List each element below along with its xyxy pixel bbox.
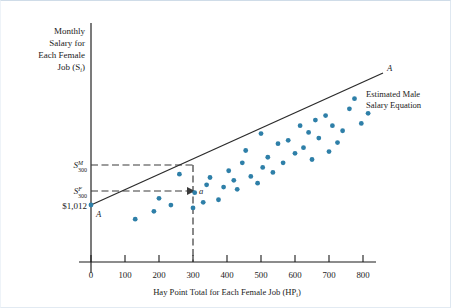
intercept-label: $1,012 — [62, 201, 87, 211]
scatter-point — [298, 123, 303, 128]
scatter-point — [169, 203, 174, 208]
x-axis-title-text: Hay Point Total for Each Female Job (HP — [153, 287, 296, 297]
intercept-point — [89, 203, 94, 208]
scatter-point — [226, 168, 231, 173]
female-salary-marker-label: SF300 — [74, 186, 87, 199]
scatter-point — [340, 128, 345, 133]
y-axis-title-tail: ) — [82, 62, 85, 72]
estimated-male-salary-line — [91, 73, 383, 205]
scatter-point — [323, 113, 328, 118]
x-tick-label: 700 — [322, 270, 336, 280]
x-tick-label: 600 — [288, 270, 302, 280]
y-axis-title-line: Monthly — [54, 26, 86, 36]
scatter-point — [271, 170, 276, 175]
scatter-point — [330, 123, 335, 128]
scatter-point — [216, 197, 221, 202]
scatter-point — [359, 121, 364, 126]
scatter-point — [255, 181, 260, 186]
x-tick-label: 100 — [118, 270, 132, 280]
scatter-point — [310, 157, 315, 162]
male-salary-marker-label: SM300 — [74, 160, 88, 173]
scatter-point — [316, 136, 321, 141]
x-axis-title-tail: ) — [298, 287, 301, 297]
fit-line-note-line: Salary Equation — [366, 100, 422, 110]
scatter-point — [265, 155, 270, 160]
fit-line-note: Estimated Male Salary Equation — [366, 89, 422, 110]
x-tick-label: 500 — [254, 270, 268, 280]
scatter-point — [243, 148, 248, 153]
scatter-point — [352, 96, 357, 101]
fit-line-note-line: Estimated Male — [366, 89, 420, 99]
scatter-point — [152, 209, 157, 214]
x-tick-label: 200 — [152, 270, 166, 280]
scatter-point — [306, 130, 311, 135]
chart-svg: 0 100 200 300 400 500 600 700 800 Hay Po… — [1, 1, 451, 308]
scatter-point — [347, 106, 352, 111]
scatter-point — [157, 196, 162, 201]
y-axis-title-line-text: Job (S — [58, 62, 81, 72]
scatter-point — [208, 175, 213, 180]
scatter-plot: 0 100 200 300 400 500 600 700 800 Hay Po… — [1, 1, 450, 307]
scatter-point — [286, 138, 291, 143]
x-tick-label: 300 — [186, 270, 200, 280]
y-axis-title-line: Job (Si) — [58, 62, 85, 73]
scatter-point — [191, 206, 196, 211]
scatter-point — [231, 178, 236, 183]
scatter-point — [260, 165, 265, 170]
y-axis-title: Monthly Salary for Each Female Job (Si) — [38, 26, 85, 73]
scatter-point — [276, 141, 281, 146]
x-tick-label: 0 — [89, 270, 94, 280]
y-axis-title-line: Salary for — [49, 38, 85, 48]
scatter-point — [235, 187, 240, 192]
scatter-point — [248, 174, 253, 179]
scatter-point — [221, 185, 226, 190]
figure-frame: 0 100 200 300 400 500 600 700 800 Hay Po… — [0, 0, 451, 308]
scatter-point — [301, 145, 306, 150]
male-salary-sup: M — [77, 160, 84, 166]
line-label-end: A — [386, 63, 393, 73]
point-a-label: a — [199, 186, 203, 196]
x-axis-title: Hay Point Total for Each Female Job (HPi… — [153, 287, 301, 298]
scatter-point — [327, 149, 332, 154]
line-label-start: A — [95, 209, 102, 219]
x-tick-label: 400 — [220, 270, 234, 280]
x-tick-labels: 0 100 200 300 400 500 600 700 800 — [89, 270, 370, 280]
scatter-points — [133, 96, 371, 221]
scatter-point — [204, 182, 209, 187]
scatter-point — [281, 160, 286, 165]
scatter-point — [192, 190, 197, 195]
female-salary-sup: F — [77, 186, 82, 192]
scatter-point — [293, 151, 298, 156]
y-axis-title-line: Each Female — [38, 50, 85, 60]
scatter-point — [133, 217, 138, 222]
scatter-point — [335, 140, 340, 145]
female-salary-sub: 300 — [78, 193, 87, 199]
x-tick-marks — [91, 255, 363, 262]
scatter-point — [240, 160, 245, 165]
scatter-point — [313, 118, 318, 123]
x-tick-label: 800 — [356, 270, 370, 280]
male-salary-sub: 300 — [78, 167, 87, 173]
scatter-point — [366, 111, 371, 116]
scatter-point — [177, 172, 182, 177]
scatter-point — [259, 131, 264, 136]
scatter-point — [201, 200, 206, 205]
